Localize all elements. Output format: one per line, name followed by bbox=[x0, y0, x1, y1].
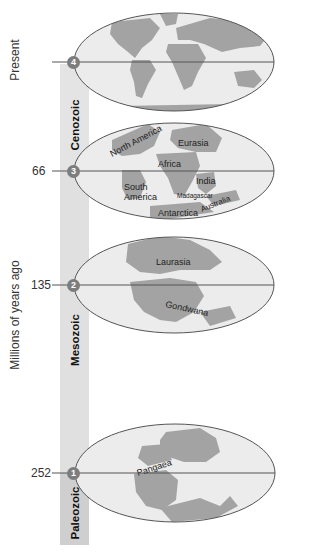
stage-marker-4: 4 bbox=[67, 56, 80, 69]
label-india: India bbox=[196, 176, 216, 186]
label-south-america: South bbox=[124, 182, 148, 192]
label-madagascar: Madagascar bbox=[177, 192, 214, 200]
globe-present bbox=[74, 13, 274, 120]
globe-66-mya: North America Eurasia Africa South Ameri… bbox=[74, 123, 274, 222]
label-antarctica: Antarctica bbox=[158, 208, 198, 218]
label-africa: Africa bbox=[158, 159, 181, 169]
stage-marker-2: 2 bbox=[67, 279, 80, 292]
age-label-135: 135 bbox=[31, 278, 51, 292]
age-label-252: 252 bbox=[31, 466, 51, 480]
label-south-america-2: America bbox=[124, 192, 157, 202]
stage-marker-3: 3 bbox=[67, 165, 80, 178]
label-laurasia: Laurasia bbox=[156, 257, 191, 267]
label-eurasia: Eurasia bbox=[178, 138, 209, 148]
stage-marker-1: 1 bbox=[67, 467, 80, 480]
age-label-66: 66 bbox=[32, 164, 45, 178]
